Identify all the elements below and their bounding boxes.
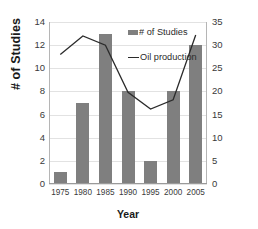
legend: # of Studies Oil production	[128, 26, 197, 76]
bar-swatch-icon	[128, 30, 138, 35]
y-tick-left-4: 4	[40, 133, 45, 143]
y-tick-right-20: 20	[212, 86, 223, 96]
y-tick-left-2: 2	[40, 156, 45, 166]
y-tick-right-30: 30	[212, 40, 223, 50]
y-tick-left-8: 8	[40, 86, 45, 96]
y-axis-left-title: # of Studies	[9, 0, 23, 124]
legend-label-studies: # of Studies	[139, 27, 188, 37]
legend-item-oil-production: Oil production	[128, 51, 197, 63]
y-tick-left-14: 14	[34, 17, 45, 27]
y-tick-right-35: 35	[212, 17, 223, 27]
x-axis-title: Year	[49, 208, 207, 220]
y-tick-left-0: 0	[40, 179, 45, 189]
legend-label-oil-production: Oil production	[140, 52, 197, 62]
gridline	[49, 184, 207, 185]
y-tick-right-10: 10	[212, 133, 223, 143]
chart-container: # of Studies Oil Production (million bar…	[0, 0, 258, 229]
y-tick-right-25: 25	[212, 63, 223, 73]
y-tick-left-12: 12	[34, 40, 45, 50]
y-tick-left-10: 10	[34, 63, 45, 73]
y-tick-right-5: 5	[212, 156, 217, 166]
y-tick-right-15: 15	[212, 110, 223, 120]
y-tick-left-6: 6	[40, 110, 45, 120]
y-tick-right-0: 0	[212, 179, 217, 189]
legend-item-studies: # of Studies	[128, 26, 197, 38]
x-tick-2005: 2005	[183, 189, 209, 197]
line-swatch-icon	[128, 57, 139, 58]
